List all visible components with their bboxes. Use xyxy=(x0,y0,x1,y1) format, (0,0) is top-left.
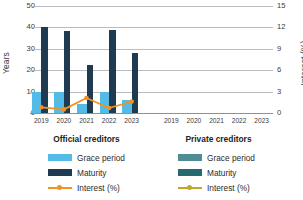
gridline-0 xyxy=(30,113,273,114)
interest-line-private xyxy=(160,6,273,113)
y-tick-right-12: 12 xyxy=(277,23,301,31)
x-tick-private-2023: 2023 xyxy=(251,118,273,125)
legend-swatch-grace-period-private xyxy=(178,154,202,161)
legend-item-maturity-private: Maturity xyxy=(178,165,255,180)
legend-label-grace-period-official: Grace period xyxy=(77,153,125,163)
y-tick-right-3: 3 xyxy=(277,88,301,96)
legend-swatch-grace-period-official xyxy=(48,154,72,161)
legend-label-interest-official: Interest (%) xyxy=(77,183,120,193)
legend-label-maturity-private: Maturity xyxy=(207,168,237,178)
legend-private: Grace period Maturity Interest (%) xyxy=(178,150,255,195)
legend-item-interest-official: Interest (%) xyxy=(48,180,125,195)
legend-label-grace-period-private: Grace period xyxy=(207,153,255,163)
legend-swatch-interest-private xyxy=(178,184,202,191)
x-tick-official-2019: 2019 xyxy=(30,118,52,125)
y-axis-right-title: Interest (%) xyxy=(299,35,303,91)
legend-item-grace-period-private: Grace period xyxy=(178,150,255,165)
legend-item-grace-period-official: Grace period xyxy=(48,150,125,165)
panel-official-creditors xyxy=(30,6,143,113)
x-tick-official-2021: 2021 xyxy=(76,118,98,125)
legend-label-interest-private: Interest (%) xyxy=(207,183,250,193)
x-tick-private-2019: 2019 xyxy=(160,118,182,125)
x-tick-private-2021: 2021 xyxy=(206,118,228,125)
interest-line-official xyxy=(30,6,143,113)
plot-area xyxy=(30,6,273,113)
y-tick-right-9: 9 xyxy=(277,45,301,53)
legend-label-maturity-official: Maturity xyxy=(77,168,107,178)
panel-caption-official: Official creditors xyxy=(20,134,153,144)
x-tick-official-2020: 2020 xyxy=(53,118,75,125)
x-tick-official-2022: 2022 xyxy=(98,118,120,125)
x-tick-private-2020: 2020 xyxy=(183,118,205,125)
dual-panel-bar-line-chart: Years Interest (%) 01020304050 03691215 … xyxy=(0,0,303,200)
y-tick-right-6: 6 xyxy=(277,66,301,74)
x-tick-official-2023: 2023 xyxy=(121,118,143,125)
legend-item-maturity-official: Maturity xyxy=(48,165,125,180)
legend-swatch-maturity-official xyxy=(48,169,72,176)
y-axis-left-title: Years xyxy=(1,43,11,83)
legend-swatch-maturity-private xyxy=(178,169,202,176)
legend-swatch-interest-official xyxy=(48,184,72,191)
y-tick-right-15: 15 xyxy=(277,2,301,10)
panel-caption-private: Private creditors xyxy=(152,134,285,144)
legend-official: Grace period Maturity Interest (%) xyxy=(48,150,125,195)
y-tick-right-0: 0 xyxy=(277,109,301,117)
x-tick-private-2022: 2022 xyxy=(228,118,250,125)
legend-item-interest-private: Interest (%) xyxy=(178,180,255,195)
panel-private-creditors xyxy=(160,6,273,113)
